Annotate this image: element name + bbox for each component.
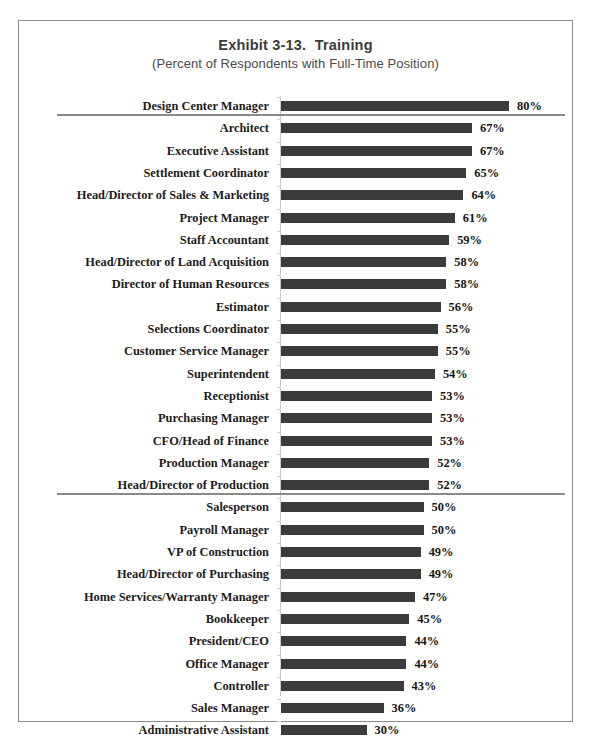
bar-row: Head/Director of Purchasing49% [19,563,572,586]
axis-tick [277,320,281,321]
bar-value-label: 59% [457,229,482,252]
axis-tick [277,588,281,589]
bar-value-label: 52% [437,452,462,475]
bar [281,146,472,156]
bar-row: Office Manager44% [19,653,572,676]
axis-tick [277,342,281,343]
bar-value-label: 49% [429,563,454,586]
bar-track: 43% [281,675,572,698]
axis-tick [277,186,281,187]
bar [281,614,409,624]
bar-row-label: Controller [213,675,269,698]
axis-tick [277,521,281,522]
bar [281,302,441,312]
page-title: Exhibit 3-13. Training [19,37,572,53]
axis-tick [277,164,281,165]
bar-row: President/CEO44% [19,630,572,653]
axis-tick [277,632,281,633]
bar-value-label: 58% [454,251,479,274]
bar [281,168,466,178]
bar [281,213,455,223]
axis-tick [277,409,281,410]
bar-row-label: Administrative Assistant [139,719,269,739]
bar [281,569,421,579]
bar [281,725,367,735]
bar [281,681,404,691]
axis-tick [277,677,281,678]
bar-row-label: President/CEO [189,630,269,653]
bar-track: 55% [281,318,572,341]
bar-value-label: 58% [454,273,479,296]
bar-track: 53% [281,407,572,430]
bar-row: Bookkeeper45% [19,608,572,631]
bar-track: 47% [281,586,572,609]
axis-tick [277,565,281,566]
bar-row: CFO/Head of Finance53% [19,430,572,453]
axis-tick [277,142,281,143]
bar-row: Purchasing Manager53% [19,407,572,430]
bar-row: Settlement Coordinator65% [19,162,572,185]
bar-value-label: 61% [463,207,488,230]
bar-track: 44% [281,630,572,653]
bar-row: Home Services/Warranty Manager47% [19,586,572,609]
bar-row-label: Executive Assistant [167,140,269,163]
bar-row-label: Customer Service Manager [124,340,269,363]
bar-value-label: 36% [392,697,417,720]
bar [281,703,384,713]
bar-row: Receptionist53% [19,385,572,408]
bar-value-label: 55% [446,340,471,363]
chart-subtitle: (Percent of Respondents with Full-Time P… [19,56,572,71]
bar-value-label: 67% [480,117,505,140]
bar-value-label: 56% [449,296,474,319]
bar-row: Administrative Assistant30% [19,719,572,739]
bar [281,279,446,289]
bar-row: Head/Director of Sales & Marketing64% [19,184,572,207]
bar-track: 45% [281,608,572,631]
axis-tick [277,119,281,120]
axis-tick [277,543,281,544]
bar-row: Director of Human Resources58% [19,273,572,296]
bar-value-label: 64% [471,184,496,207]
axis-tick [277,97,281,98]
bar-row: Controller43% [19,675,572,698]
bar-track: 55% [281,340,572,363]
bar [281,324,438,334]
axis-tick [277,209,281,210]
bar-row-label: Bookkeeper [206,608,269,631]
bar-row: VP of Construction49% [19,541,572,564]
bar-track: 44% [281,653,572,676]
bar-row-label: Production Manager [159,452,269,475]
bar-value-label: 53% [440,407,465,430]
bar-row-label: Head/Director of Sales & Marketing [77,184,269,207]
axis-tick [277,721,281,722]
bar-row-label: Home Services/Warranty Manager [84,586,269,609]
axis-tick [277,498,281,499]
axis-tick [277,365,281,366]
bar-value-label: 45% [417,608,442,631]
bar-value-label: 53% [440,385,465,408]
bar-row: Payroll Manager50% [19,519,572,542]
bar-value-label: 53% [440,430,465,453]
bar [281,190,463,200]
bar [281,391,432,401]
bar-track: 49% [281,563,572,586]
bar-track: 56% [281,296,572,319]
bar [281,413,432,423]
bar-row-label: Receptionist [204,385,269,408]
axis-tick [277,387,281,388]
bar [281,346,438,356]
bar-value-label: 47% [423,586,448,609]
axis-tick [277,275,281,276]
bar-row: Selections Coordinator55% [19,318,572,341]
bar-track: 67% [281,140,572,163]
title-block: Exhibit 3-13. Training (Percent of Respo… [19,37,572,71]
bar-value-label: 43% [412,675,437,698]
chart-frame: Exhibit 3-13. Training (Percent of Respo… [18,20,573,722]
bar-track: 50% [281,496,572,519]
axis-tick [277,253,281,254]
bar-value-label: 50% [432,496,457,519]
bar-row-label: Estimator [216,296,269,319]
axis-tick [277,231,281,232]
bar [281,436,432,446]
bar-row: Project Manager61% [19,207,572,230]
